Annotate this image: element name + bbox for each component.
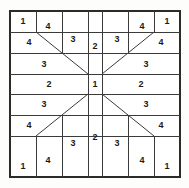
region-label-tr-band3-3: 3 (143, 59, 148, 69)
region-label-tl-band3-3: 3 (41, 59, 46, 69)
region-label-br-lower-4: 4 (139, 155, 144, 165)
region-label-bl-col3-3: 3 (70, 138, 75, 148)
region-label-mid-left-2: 2 (46, 79, 51, 89)
region-label-bl-left-4: 4 (26, 120, 31, 130)
region-label-tl-col3-3: 3 (70, 34, 75, 44)
region-label-br-band3-3: 3 (143, 99, 148, 109)
region-label-br-right-4: 4 (158, 120, 163, 130)
region-label-tr-right-4: 4 (158, 37, 163, 47)
region-label-tr-col5-3: 3 (114, 34, 119, 44)
region-label-bl-corner-1: 1 (20, 161, 25, 171)
puzzle-figure: 1443323414321234143234143 (0, 0, 189, 188)
puzzle-canvas: 1443323414321234143234143 (0, 0, 189, 188)
region-label-tr-corner-1: 1 (164, 16, 169, 26)
region-label-tl-upper-4: 4 (45, 21, 50, 31)
region-label-br-corner-1: 1 (164, 161, 169, 171)
region-label-tl-left-4: 4 (26, 37, 31, 47)
region-label-bl-lower-4: 4 (45, 155, 50, 165)
region-label-top-center-2: 2 (92, 41, 97, 51)
region-label-mid-center-1: 1 (92, 79, 97, 89)
region-label-tl-corner-1: 1 (20, 16, 25, 26)
region-label-bot-center-2: 2 (92, 132, 97, 142)
region-label-bl-band3-3: 3 (41, 99, 46, 109)
region-label-tr-upper-4: 4 (139, 21, 144, 31)
region-label-mid-right-2: 2 (138, 79, 143, 89)
region-label-br-col5-3: 3 (114, 138, 119, 148)
